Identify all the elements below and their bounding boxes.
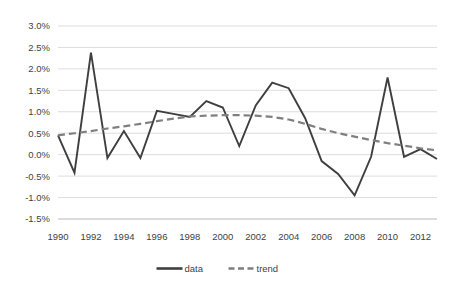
x-axis-tick-label: 2002	[245, 231, 266, 242]
x-axis-tick-label: 2000	[212, 231, 233, 242]
x-axis-tick-label: 1994	[113, 231, 134, 242]
series-line-data	[58, 53, 437, 196]
legend-label-data: data	[185, 263, 204, 274]
y-axis-tick-label: 0.0%	[28, 149, 50, 160]
x-axis-tick-label: 2010	[377, 231, 398, 242]
x-axis-tick-label: 2004	[278, 231, 299, 242]
y-axis-tick-label: -0.5%	[25, 171, 50, 182]
y-axis-tick-label: 1.0%	[28, 106, 50, 117]
x-axis-tick-label: 2006	[311, 231, 332, 242]
y-axis-tick-label: -1.0%	[25, 192, 50, 203]
y-axis-tick-label: 3.0%	[28, 20, 50, 31]
gridlines	[58, 26, 437, 219]
chart-legend: datatrend	[157, 263, 279, 274]
y-axis-tick-label: 2.5%	[28, 42, 50, 53]
y-axis-tick-label: 1.5%	[28, 85, 50, 96]
chart-canvas: 3.0%2.5%2.0%1.5%1.0%0.5%0.0%-0.5%-1.0%-1…	[0, 0, 449, 291]
y-axis-tick-label: -1.5%	[25, 213, 50, 224]
x-axis-tick-label: 2012	[410, 231, 431, 242]
y-axis-tick-labels: 3.0%2.5%2.0%1.5%1.0%0.5%0.0%-0.5%-1.0%-1…	[25, 20, 50, 224]
x-axis-tick-labels: 1990199219941996199820002002200420062008…	[47, 231, 431, 242]
x-axis-tick-label: 1996	[146, 231, 167, 242]
y-axis-tick-label: 2.0%	[28, 63, 50, 74]
y-axis-tick-label: 0.5%	[28, 128, 50, 139]
legend-label-trend: trend	[257, 263, 279, 274]
x-axis-tick-label: 1990	[47, 231, 68, 242]
x-axis-tick-label: 2008	[344, 231, 365, 242]
series-layer	[58, 53, 437, 196]
x-axis-tick-label: 1998	[179, 231, 200, 242]
x-axis-tick-label: 1992	[80, 231, 101, 242]
line-chart: 3.0%2.5%2.0%1.5%1.0%0.5%0.0%-0.5%-1.0%-1…	[0, 0, 449, 291]
